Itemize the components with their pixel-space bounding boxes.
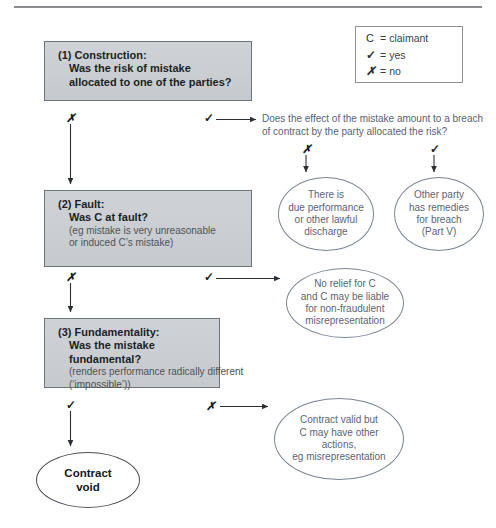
- branch-marker-breach-no: ✗: [302, 144, 312, 156]
- box3-heading: (3) Fundamentality:: [58, 326, 210, 339]
- outcome-remedies-line1: Other party: [409, 189, 469, 201]
- box2-note1: (eg mistake is very unreasonable: [58, 225, 242, 238]
- outcome-contract-void-line1: Contract: [64, 466, 111, 480]
- outcome-no-relief-line1: No relief for C: [301, 278, 389, 290]
- outcome-contract-valid-line1: Contract valid but: [281, 414, 397, 426]
- outcome-contract-valid-line3: eg misrepresentation: [281, 451, 397, 463]
- legend-row: ✓ = yes: [366, 48, 462, 64]
- outcome-discharge-line1: There is: [288, 189, 364, 201]
- branch-marker-breach-yes: ✓: [430, 144, 440, 156]
- legend-row: ✗ = no: [366, 64, 462, 80]
- box3-line2: Was the mistake: [58, 339, 210, 352]
- outcome-no-relief-line2: and C may be liable: [301, 291, 389, 303]
- outcome-oval-contract-void[interactable]: Contract void: [36, 452, 140, 508]
- outcome-discharge-text: There is due performance or other lawful…: [282, 189, 370, 239]
- legend-label-claimant: claimant: [389, 32, 428, 44]
- legend-equals: =: [380, 32, 386, 44]
- box1-line3: allocated to one of the parties?: [58, 76, 242, 89]
- check-icon: ✓: [366, 48, 380, 62]
- question-box-fault[interactable]: (2) Fault: Was C at fault? (eg mistake i…: [44, 190, 252, 267]
- outcome-contract-void-line2: void: [64, 480, 111, 494]
- branch-marker-box1-yes: ✓: [204, 113, 214, 125]
- cross-icon: ✗: [366, 64, 380, 78]
- legend-equals: =: [380, 49, 386, 61]
- outcome-remedies-line3: for breach: [409, 214, 469, 226]
- legend-label-no: no: [389, 65, 401, 77]
- header-divider: [14, 6, 482, 8]
- legend-equals: =: [380, 65, 386, 77]
- question-box-fundamentality[interactable]: (3) Fundamentality: Was the mistake fund…: [44, 318, 220, 388]
- legend-row: C = claimant: [366, 32, 462, 48]
- branch-marker-box2-yes: ✓: [204, 272, 214, 284]
- outcome-remedies-line4: (Part V): [409, 226, 469, 238]
- box1-heading: (1) Construction:: [58, 49, 242, 62]
- outcome-no-relief-line3: for non-fraudulent: [301, 303, 389, 315]
- outcome-contract-valid-text: Contract valid but C may have other acti…: [275, 414, 403, 464]
- question-box-construction[interactable]: (1) Construction: Was the risk of mistak…: [44, 41, 252, 101]
- outcome-contract-void-text: Contract void: [58, 466, 117, 494]
- outcome-discharge-line4: discharge: [288, 226, 364, 238]
- box1-line2: Was the risk of mistake: [58, 62, 242, 75]
- flowchart-canvas: C = claimant ✓ = yes ✗ = no (1) Construc…: [0, 0, 496, 528]
- outcome-no-relief-line4: misrepresentation: [301, 315, 389, 327]
- box3-note2: (‘impossible’)): [58, 379, 210, 392]
- outcome-contract-valid-line2: C may have other actions,: [281, 427, 397, 452]
- legend-box: C = claimant ✓ = yes ✗ = no: [355, 26, 463, 83]
- legend-symbol-claimant: C: [366, 32, 380, 44]
- outcome-oval-remedies[interactable]: Other party has remedies for breach (Par…: [394, 177, 484, 251]
- outcome-discharge-line2: due performance: [288, 202, 364, 214]
- branch-marker-box3-no: ✗: [206, 401, 216, 413]
- outcome-oval-no-relief[interactable]: No relief for C and C may be liable for …: [286, 268, 404, 338]
- breach-question-line2: of contract by the party allocated the r…: [262, 126, 496, 139]
- outcome-remedies-text: Other party has remedies for breach (Par…: [403, 189, 475, 239]
- branch-marker-box2-no: ✗: [66, 272, 76, 284]
- branch-marker-box1-no: ✗: [66, 113, 76, 125]
- breach-question-text: Does the effect of the mistake amount to…: [262, 113, 496, 138]
- branch-marker-box3-yes: ✓: [66, 400, 76, 412]
- outcome-oval-discharge[interactable]: There is due performance or other lawful…: [278, 177, 374, 251]
- outcome-oval-contract-valid[interactable]: Contract valid but C may have other acti…: [274, 398, 404, 480]
- legend-label-yes: yes: [389, 49, 405, 61]
- box2-note2: or induced C’s mistake): [58, 237, 242, 250]
- outcome-no-relief-text: No relief for C and C may be liable for …: [295, 278, 395, 328]
- box2-line2: Was C at fault?: [58, 211, 242, 224]
- breach-question-line1: Does the effect of the mistake amount to…: [262, 113, 496, 126]
- box3-note1: (renders performance radically different: [58, 366, 210, 379]
- box2-heading: (2) Fault:: [58, 198, 242, 211]
- outcome-discharge-line3: or other lawful: [288, 214, 364, 226]
- box3-line3: fundamental?: [58, 353, 210, 366]
- outcome-remedies-line2: has remedies: [409, 202, 469, 214]
